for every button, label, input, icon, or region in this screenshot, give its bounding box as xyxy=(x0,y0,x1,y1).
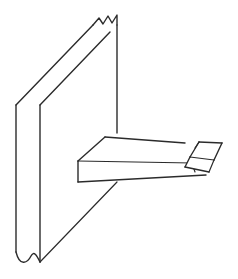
top-break-line-icon xyxy=(93,15,117,25)
technical-drawing-svg xyxy=(0,0,238,279)
bracket-gusset-group xyxy=(78,137,206,182)
wall-slab-group xyxy=(16,15,117,262)
end-block-group xyxy=(185,142,222,172)
wall-front-face xyxy=(16,105,40,258)
end-block-top-back-edge xyxy=(199,142,222,143)
drawing-canvas xyxy=(0,0,238,279)
